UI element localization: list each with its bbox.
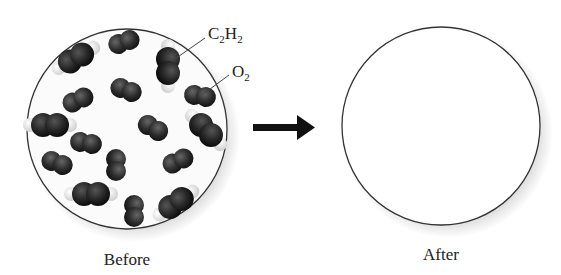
- o2-molecule: [106, 149, 126, 181]
- o2-label: O2: [232, 62, 250, 83]
- c2h2-label-sub2: 2: [237, 33, 243, 45]
- before-caption: Before: [67, 250, 187, 270]
- reaction-diagram: [0, 0, 561, 275]
- o2-label-o: O: [232, 62, 244, 81]
- arrow-icon: [253, 115, 315, 140]
- c2h2-label-c: C: [208, 24, 219, 43]
- o2-label-sub: 2: [244, 71, 250, 83]
- o2-molecule: [124, 195, 144, 227]
- c2h2-label-h: H: [225, 24, 237, 43]
- after-caption: After: [381, 245, 501, 265]
- after-container: [342, 27, 553, 238]
- c2h2-label: C2H2: [208, 24, 243, 45]
- before-container: [23, 27, 240, 242]
